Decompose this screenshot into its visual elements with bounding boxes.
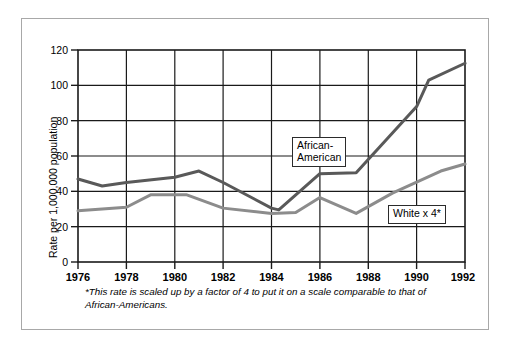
figure-container: Rate per 1,000,000 population: [0, 0, 512, 348]
x-tick-label: 1992: [451, 271, 475, 283]
annotation-white-x4: White x 4*: [388, 205, 446, 224]
y-tick-label: 120: [50, 44, 68, 56]
x-tick-label: 1982: [211, 271, 235, 283]
chart-footnote: *This rate is scaled up by a factor of 4…: [85, 286, 450, 311]
y-tick-label: 0: [62, 256, 68, 268]
x-axis-tick-labels: 1976 1978 1980 1982 1984 1986 1988 1990 …: [66, 271, 475, 283]
x-tick-label: 1984: [259, 271, 284, 283]
x-tick-label: 1978: [114, 271, 138, 283]
x-axis-ticks: [78, 262, 465, 269]
annotation-african-american: African- American: [292, 137, 346, 167]
x-tick-label: 1988: [356, 271, 380, 283]
y-axis-ticks: [71, 50, 78, 262]
y-tick-label: 20: [56, 221, 68, 233]
y-tick-label: 80: [56, 115, 68, 127]
x-tick-label: 1986: [308, 271, 332, 283]
x-tick-label: 1976: [66, 271, 90, 283]
y-tick-label: 40: [56, 185, 68, 197]
y-tick-label: 60: [56, 150, 68, 162]
y-tick-label: 100: [50, 79, 68, 91]
y-axis-tick-labels: 120 100 80 60 40 20 0: [50, 44, 68, 268]
x-tick-label: 1990: [404, 271, 428, 283]
x-tick-label: 1980: [163, 271, 187, 283]
